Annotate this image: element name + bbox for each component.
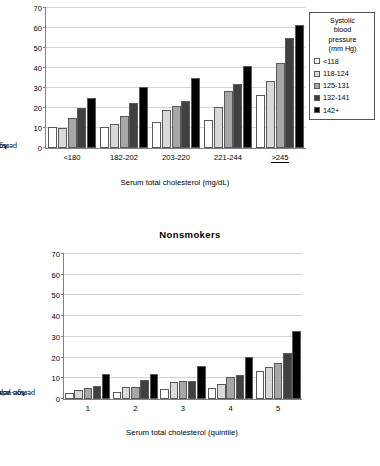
y-tick-label: 30 (52, 332, 60, 341)
bar-group: 3 (159, 254, 207, 399)
bar[interactable] (162, 110, 171, 148)
bar[interactable] (87, 98, 96, 148)
bar[interactable] (276, 63, 285, 148)
y-axis-title-line2: person years (0, 141, 17, 150)
bar[interactable] (188, 381, 196, 399)
bar[interactable] (214, 107, 223, 148)
x-category-label: 5 (254, 404, 302, 413)
legend-item[interactable]: 125-131 (314, 81, 371, 90)
bar[interactable] (48, 127, 57, 148)
bar[interactable] (285, 38, 294, 148)
bar[interactable] (191, 78, 200, 148)
bar[interactable] (274, 363, 282, 399)
bar[interactable] (181, 101, 190, 148)
legend-item[interactable]: 132-141 (314, 93, 371, 102)
y-tick-label: 10 (52, 374, 60, 383)
bar[interactable] (152, 122, 161, 148)
legend-item-label: 118-124 (323, 69, 349, 78)
bar[interactable] (292, 331, 300, 399)
bar[interactable] (140, 380, 148, 399)
bar[interactable] (283, 353, 291, 399)
bar[interactable] (170, 382, 178, 399)
y-tick-label: 40 (52, 312, 60, 321)
y-tick-label: 70 (52, 250, 60, 259)
bar[interactable] (236, 375, 244, 399)
y-tick-label: 60 (52, 270, 60, 279)
bar[interactable] (256, 371, 264, 399)
bar[interactable] (208, 388, 216, 399)
bar[interactable] (139, 87, 148, 148)
x-category-label: >245 (254, 153, 306, 162)
bar[interactable] (197, 366, 205, 399)
y-tick-label: 30 (34, 84, 42, 93)
legend-item[interactable]: <118 (314, 57, 371, 66)
chart-panel-nonsmokers: Nonsmokers Age-adjusted CHD mortality/10… (0, 228, 380, 466)
bar[interactable] (150, 374, 158, 399)
bar[interactable] (256, 95, 265, 148)
legend-title-line-4: (mm Hg) (314, 44, 371, 53)
bar[interactable] (129, 103, 138, 148)
bar[interactable] (224, 91, 233, 148)
bar-group: 5 (254, 254, 302, 399)
x-axis-title-nonsmokers: Serum total cholesterol (quintile) (63, 428, 301, 437)
bar[interactable] (122, 387, 130, 399)
y-tick-label: 50 (34, 44, 42, 53)
bar[interactable] (160, 389, 168, 399)
bar-group: 4 (207, 254, 255, 399)
legend-items: <118118-124125-131132-141142+ (314, 57, 371, 115)
y-tick-label: 60 (34, 24, 42, 33)
x-category-label: 1 (64, 404, 112, 413)
bar[interactable] (295, 25, 304, 148)
plot-wrap-nonsmokers: Age-adjusted CHD mortality/10,000 person… (0, 242, 380, 452)
bar[interactable] (204, 120, 213, 148)
bar[interactable] (93, 386, 101, 399)
legend-item[interactable]: 118-124 (314, 69, 371, 78)
plot-area-smokers: 010203040506070 <180182-202203-220221-24… (45, 8, 306, 149)
y-tick-label: 40 (34, 64, 42, 73)
bar-group: 221-244 (202, 8, 254, 148)
bar[interactable] (110, 124, 119, 148)
legend-item-label: <118 (323, 57, 339, 66)
bar-groups-smokers: <180182-202203-220221-244>245 (46, 8, 306, 148)
legend: Systolic blood pressure (mm Hg) <118118-… (309, 12, 375, 120)
bar[interactable] (58, 128, 67, 148)
bar[interactable] (77, 108, 86, 148)
legend-title-line-1: Systolic (314, 16, 371, 25)
y-tick-label: 50 (52, 291, 60, 300)
bar[interactable] (102, 374, 110, 399)
bar[interactable] (245, 357, 253, 399)
bar[interactable] (226, 377, 234, 399)
legend-title-line-2: blood (314, 25, 371, 34)
bar[interactable] (68, 118, 77, 148)
bar-group: 1 (64, 254, 112, 399)
bar[interactable] (74, 390, 82, 399)
legend-item[interactable]: 142+ (314, 106, 371, 115)
legend-item-label: 142+ (323, 106, 339, 115)
bar[interactable] (131, 387, 139, 399)
bar[interactable] (266, 81, 275, 148)
bar-group: >245 (254, 8, 306, 148)
bar[interactable] (113, 392, 121, 399)
bar[interactable] (217, 384, 225, 399)
bar[interactable] (179, 381, 187, 399)
chart-panel-smokers: Age-adjusted CHD mortality/10,000 person… (0, 0, 380, 212)
legend-swatch-icon (314, 83, 320, 89)
bar[interactable] (65, 393, 73, 399)
x-category-label: 2 (112, 404, 160, 413)
bar[interactable] (84, 388, 92, 399)
bar[interactable] (243, 66, 252, 148)
legend-swatch-icon (314, 95, 320, 101)
legend-item-label: 125-131 (323, 81, 349, 90)
bar[interactable] (233, 84, 242, 148)
bar[interactable] (172, 106, 181, 148)
legend-item-label: 132-141 (323, 93, 349, 102)
plot-wrap-smokers: Age-adjusted CHD mortality/10,000 person… (0, 0, 380, 198)
bar-groups-nonsmokers: 12345 (64, 254, 302, 399)
bar-group: <180 (46, 8, 98, 148)
legend-title-line-3: pressure (314, 35, 371, 44)
bar[interactable] (265, 367, 273, 399)
bar[interactable] (120, 116, 129, 148)
x-category-label: 3 (159, 404, 207, 413)
bar[interactable] (100, 127, 109, 148)
y-axis-title-smokers: Age-adjusted CHD mortality/10,000 person… (0, 0, 22, 198)
